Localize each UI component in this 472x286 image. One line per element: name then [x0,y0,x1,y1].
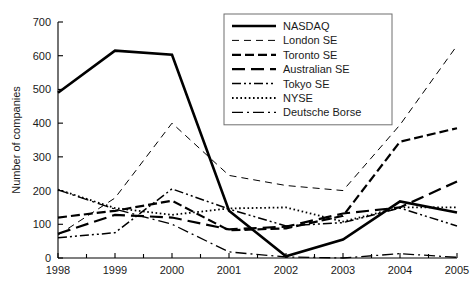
x-tick-label: 1998 [46,264,70,276]
y-tick-label: 300 [33,151,51,163]
series-line-deutsche-borse [58,190,457,258]
y-tick-label: 0 [45,252,51,264]
y-axis: 0100200300400500600700 [33,16,63,264]
chart-legend: NASDAQLondon SEToronto SEAustralian SETo… [224,14,392,125]
series-line-australian-se [58,181,457,233]
x-axis: 19981999200020012002200320042005 [46,253,469,276]
chart-container: 0100200300400500600700 19981999200020012… [0,0,472,286]
y-tick-label: 100 [33,218,51,230]
x-tick-label: 2004 [388,264,412,276]
line-chart: 0100200300400500600700 19981999200020012… [0,0,472,286]
x-tick-label: 2003 [331,264,355,276]
y-tick-label: 200 [33,185,51,197]
x-tick-label: 2002 [274,264,298,276]
y-tick-label: 500 [33,83,51,95]
legend-label-tokyo-se: Tokyo SE [283,78,329,90]
y-tick-label: 400 [33,117,51,129]
y-tick-label: 600 [33,50,51,62]
legend-label-deutsche-borse: Deutsche Borse [283,106,361,118]
legend-label-nasdaq: NASDAQ [283,20,330,32]
x-tick-label: 1999 [103,264,127,276]
legend-label-nyse: NYSE [283,92,313,104]
legend-label-toronto-se: Toronto SE [283,49,337,61]
legend-label-australian-se: Australian SE [283,63,350,75]
x-tick-label: 2001 [217,264,241,276]
x-tick-label: 2000 [160,264,184,276]
x-tick-label: 2005 [445,264,469,276]
y-tick-label: 700 [33,16,51,28]
y-axis-title: Number of companies [10,86,22,194]
legend-label-london-se: London SE [283,34,337,46]
